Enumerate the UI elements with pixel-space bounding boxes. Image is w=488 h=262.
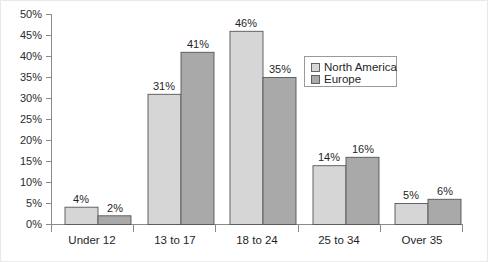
bar-value-label: 5%: [403, 189, 419, 201]
bar-value-label: 16%: [352, 143, 374, 155]
x-axis-labels: Under 12 13 to 17 18 to 24 25 to 34 Over…: [68, 234, 442, 246]
y-tick-label: 45%: [20, 29, 42, 41]
y-tick-label: 5%: [26, 197, 42, 209]
legend-item-north-america[interactable]: North America: [312, 61, 398, 73]
y-tick-label: 30%: [20, 92, 42, 104]
x-tick-label: 13 to 17: [154, 234, 196, 246]
bar-value-label: 31%: [153, 80, 175, 92]
bar-north-america[interactable]: [313, 166, 346, 225]
bar-europe[interactable]: [98, 216, 131, 225]
bar-europe[interactable]: [428, 199, 461, 224]
bar-europe[interactable]: [346, 157, 379, 224]
bar-north-america[interactable]: [230, 31, 263, 224]
y-tick-label: 25%: [20, 113, 42, 125]
bar-group-25-to-34: 14% 16%: [313, 143, 379, 225]
y-tick-label: 50%: [20, 8, 42, 20]
bar-value-label: 4%: [73, 193, 89, 205]
x-tick-marks: [52, 225, 463, 232]
x-tick-label: Under 12: [68, 234, 115, 246]
y-axis-labels: 50% 45% 40% 35% 30% 25% 20% 15% 10% 5% 0…: [20, 8, 42, 230]
bar-value-label: 41%: [187, 38, 209, 50]
y-tick-label: 15%: [20, 155, 42, 167]
bar-north-america[interactable]: [148, 94, 181, 224]
bar-north-america[interactable]: [395, 204, 428, 225]
bar-group-18-to-24: 46% 35%: [230, 17, 296, 225]
y-tick-label: 0%: [26, 218, 42, 230]
bar-group-over-35: 5% 6%: [395, 185, 461, 225]
x-tick-label: Over 35: [402, 234, 443, 246]
y-tick-label: 20%: [20, 134, 42, 146]
bar-value-label: 2%: [107, 202, 123, 214]
x-tick-label: 18 to 24: [236, 234, 278, 246]
x-tick-label: 25 to 34: [318, 234, 360, 246]
y-tick-label: 40%: [20, 50, 42, 62]
chart-canvas: 50% 45% 40% 35% 30% 25% 20% 15% 10% 5% 0…: [1, 1, 488, 262]
y-tick-label: 10%: [20, 176, 42, 188]
legend: North America Europe: [305, 57, 398, 87]
legend-label-north-america: North America: [324, 61, 397, 73]
bar-group-under-12: 4% 2%: [65, 193, 131, 225]
bar-value-label: 46%: [235, 17, 257, 29]
bar-europe[interactable]: [263, 78, 296, 225]
y-tick-label: 35%: [20, 71, 42, 83]
legend-swatch-north-america: [312, 64, 320, 72]
legend-label-europe: Europe: [324, 73, 361, 85]
bar-value-label: 35%: [269, 63, 291, 75]
bar-north-america[interactable]: [65, 207, 98, 224]
legend-swatch-europe: [312, 76, 320, 84]
bar-group-13-to-17: 31% 41%: [148, 38, 214, 225]
bar-chart: 50% 45% 40% 35% 30% 25% 20% 15% 10% 5% 0…: [0, 0, 488, 262]
bar-value-label: 6%: [437, 185, 453, 197]
bar-europe[interactable]: [181, 52, 214, 224]
bar-value-label: 14%: [318, 151, 340, 163]
y-tick-marks: [46, 15, 52, 225]
